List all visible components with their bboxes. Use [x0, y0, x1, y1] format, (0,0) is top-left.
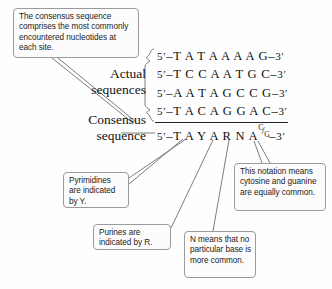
- three-prime-marker: 3′: [277, 68, 286, 80]
- three-prime-marker: 3′: [276, 130, 285, 142]
- consensus-sequence-figure: The consensus sequence comprises the mos…: [0, 0, 332, 289]
- sequence-row: 5′–T C C A A T G C–3′: [157, 65, 288, 83]
- sequence-bases: T A T A A A A G: [173, 49, 268, 63]
- callout-purines: Purines are indicated by R.: [93, 224, 171, 250]
- label-consensus-sequence: Consensus sequence: [36, 112, 146, 143]
- five-prime-marker: 5′: [157, 50, 166, 62]
- leader-line-purines: [171, 140, 213, 228]
- sequence-bases: A A T A G C C G: [173, 86, 272, 100]
- label-actual-sequences: Actual sequences: [52, 66, 146, 97]
- five-prime-marker: 5′: [157, 87, 166, 99]
- sequence-bases: T A C A G G A C: [173, 104, 271, 118]
- sequence-row: 5′–A A T A G C C G–3′: [157, 84, 288, 102]
- leader-line-pyrimidines-a: [129, 139, 186, 178]
- label-actual-sequences-line1: Actual: [52, 66, 146, 82]
- cg-denominator: G: [264, 127, 269, 143]
- cg-ambiguity-notation: C/G: [258, 127, 269, 140]
- actual-sequences-brace: [145, 49, 154, 121]
- dash-right: –: [272, 86, 279, 100]
- label-consensus-sequence-line2: sequence: [36, 128, 146, 144]
- consensus-sequence-row: 5′–T A Y A R N AC/G–3′: [157, 127, 286, 144]
- sequences-divider-rule: [155, 122, 288, 123]
- leader-line-n-notation: [213, 140, 229, 231]
- callout-consensus-definition: The consensus sequence comprises the mos…: [13, 8, 139, 58]
- three-prime-marker: 3′: [275, 50, 284, 62]
- leader-line-pyrimidines-b: [129, 139, 183, 184]
- five-prime-marker: 5′: [157, 105, 166, 117]
- three-prime-marker: 3′: [279, 87, 288, 99]
- sequence-row: 5′–T A C A G G A C–3′: [157, 102, 288, 120]
- five-prime-marker: 5′: [157, 68, 166, 80]
- leader-line-cg-notation-a: [254, 141, 262, 163]
- callout-cg-notation: This notation means cytosine and guanine…: [234, 163, 326, 211]
- sequence-row: 5′–T A T A A A A G–3′: [157, 47, 288, 65]
- consensus-bases: T A Y A R N A: [173, 129, 258, 143]
- actual-sequences-list: 5′–T A T A A A A G–3′ 5′–T C C A A T G C…: [157, 47, 288, 121]
- callout-pyrimidines: Pyrimidines are indicated by Y.: [63, 172, 129, 208]
- label-actual-sequences-line2: sequences: [52, 82, 146, 98]
- label-consensus-sequence-line1: Consensus: [36, 112, 146, 128]
- five-prime-marker: 5′: [157, 130, 166, 142]
- sequence-bases: T C C A A T G C: [173, 67, 270, 81]
- leader-line-cg-notation-b: [258, 141, 270, 163]
- callout-n-notation: N means that no particular base is more …: [184, 231, 256, 278]
- three-prime-marker: 3′: [278, 105, 287, 117]
